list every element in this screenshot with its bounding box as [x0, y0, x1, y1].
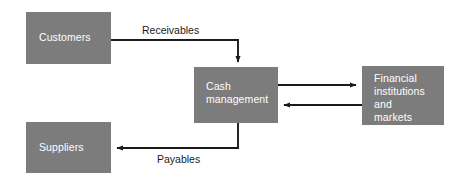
node-suppliers: Suppliers — [26, 122, 111, 173]
edge-label-receivables: Receivables — [142, 24, 199, 37]
edge-label-payables: Payables — [157, 153, 200, 166]
diagram-canvas: Customers Suppliers Cash management Fina… — [0, 0, 462, 185]
node-cash-management: Cash management — [194, 67, 278, 123]
edge-payables-arrow — [117, 123, 238, 148]
node-customers: Customers — [26, 12, 111, 64]
edge-receivables-arrow — [111, 40, 238, 62]
node-financial-institutions-and-markets: Financial institutions and markets — [362, 66, 444, 125]
